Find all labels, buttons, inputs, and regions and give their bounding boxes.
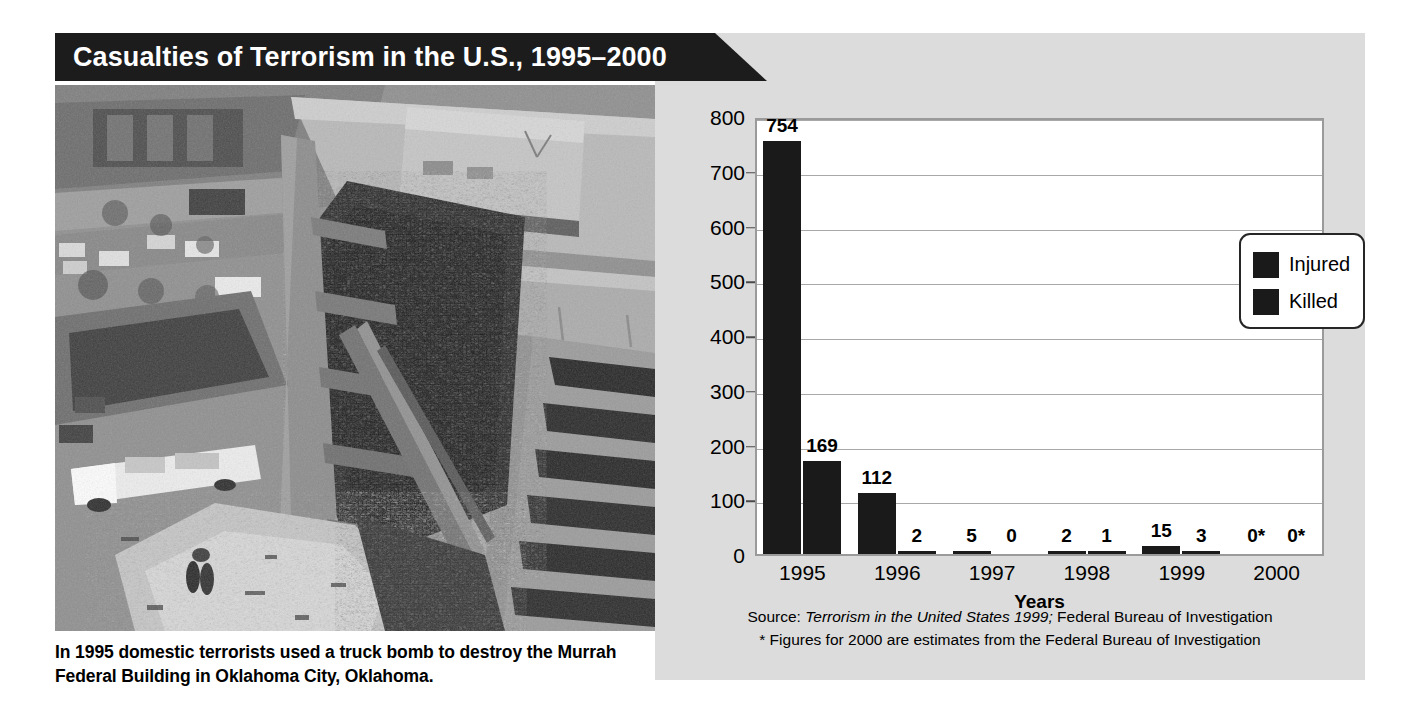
legend-label-killed: Killed <box>1289 290 1338 313</box>
page-title: Casualties of Terrorism in the U.S., 199… <box>73 42 667 73</box>
legend-swatch-icon <box>1253 252 1279 278</box>
gridline <box>757 339 1322 340</box>
y-axis-tick-label: 400 <box>699 325 745 349</box>
source-note-line2: * Figures for 2000 are estimates from th… <box>655 631 1365 649</box>
source-publication-title: Terrorism in the United States 1999; <box>805 608 1053 625</box>
y-axis-tick-mark <box>746 336 755 338</box>
bar-1995-injured <box>763 141 801 554</box>
x-axis-tick-label-1995: 1995 <box>755 561 850 585</box>
chart-panel: 0100200300400500600700800 75416911225021… <box>655 33 1365 680</box>
y-axis-tick-mark <box>746 172 755 174</box>
gridline <box>757 175 1322 176</box>
gridline <box>757 284 1322 285</box>
y-axis-tick-label: 500 <box>699 270 745 294</box>
x-axis-tick-label-1999: 1999 <box>1134 561 1229 585</box>
bar-value-label: 112 <box>850 467 904 489</box>
photo-murrah-building <box>55 85 655 631</box>
bar-value-label: 3 <box>1174 525 1228 547</box>
y-axis-tick-label: 200 <box>699 435 745 459</box>
y-axis-tick-label: 600 <box>699 216 745 240</box>
gridline <box>757 230 1322 231</box>
chart-legend: Injured Killed <box>1239 233 1365 329</box>
bar-value-label: 2 <box>890 525 944 547</box>
gridline <box>757 120 1322 121</box>
source-suffix: Federal Bureau of Investigation <box>1053 608 1273 625</box>
title-banner: Casualties of Terrorism in the U.S., 199… <box>55 33 785 81</box>
bar-1999-killed <box>1182 551 1220 554</box>
plot-area: 754169112250211530*0* Injured Killed <box>755 118 1324 556</box>
x-axis-tick-label-1997: 1997 <box>945 561 1040 585</box>
x-axis-tick-label-1996: 1996 <box>850 561 945 585</box>
plot-inner: 754169112250211530*0* <box>757 120 1322 554</box>
y-axis-tick-mark <box>746 501 755 503</box>
y-axis-tick-label: 100 <box>699 489 745 513</box>
bar-1997-injured <box>953 551 991 554</box>
y-axis-tick-mark <box>746 227 755 229</box>
photo-image <box>55 85 655 631</box>
bar-1999-injured <box>1142 546 1180 554</box>
legend-item-injured: Injured <box>1253 246 1363 283</box>
source-prefix: Source: <box>747 608 805 625</box>
y-axis-tick-label: 0 <box>699 544 745 568</box>
y-axis-tick-mark <box>746 391 755 393</box>
bar-value-label: 1 <box>1080 525 1134 547</box>
source-note-line1: Source: Terrorism in the United States 1… <box>655 608 1365 626</box>
gridline <box>757 503 1322 504</box>
y-axis-tick-label: 300 <box>699 380 745 404</box>
legend-label-injured: Injured <box>1289 253 1350 276</box>
photo-caption: In 1995 domestic terrorists used a truck… <box>55 641 675 688</box>
bar-value-label: 0 <box>985 525 1039 547</box>
legend-item-killed: Killed <box>1253 283 1363 320</box>
bar-1998-injured <box>1048 551 1086 554</box>
x-axis-tick-label-1998: 1998 <box>1040 561 1135 585</box>
y-axis-tick-mark <box>746 282 755 284</box>
y-axis-tick-label: 800 <box>699 106 745 130</box>
infographic-root: Casualties of Terrorism in the U.S., 199… <box>0 0 1411 706</box>
y-axis-tick-label: 700 <box>699 161 745 185</box>
legend-swatch-icon <box>1253 289 1279 315</box>
x-axis-tick-label-2000: 2000 <box>1229 561 1324 585</box>
bar-1995-killed <box>803 461 841 554</box>
gridline <box>757 394 1322 395</box>
y-axis-tick-mark <box>746 446 755 448</box>
bar-1998-killed <box>1088 551 1126 554</box>
bar-value-label: 754 <box>755 115 809 137</box>
bar-1996-killed <box>898 551 936 554</box>
bar-value-label: 0* <box>1269 525 1323 547</box>
bar-value-label: 169 <box>795 435 849 457</box>
